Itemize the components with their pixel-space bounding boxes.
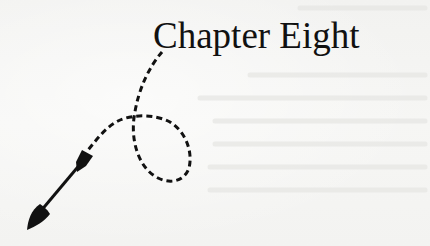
dashed-arrow-icon [0, 0, 430, 246]
arrow-shaft [40, 162, 82, 212]
book-page: Chapter Eight [0, 0, 430, 246]
arrow-head [27, 204, 50, 230]
dashed-loop-line [88, 52, 190, 181]
arrow-fletching [76, 150, 93, 172]
